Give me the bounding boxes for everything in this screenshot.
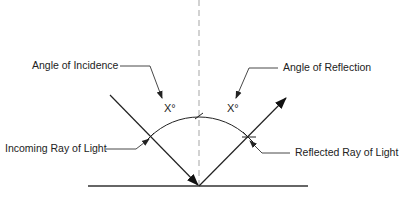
reflected-ray	[199, 98, 286, 186]
incoming-ray-leader	[106, 139, 149, 149]
angle-of-reflection-label: Angle of Reflection	[283, 61, 371, 73]
reflection-angle-value: X°	[227, 102, 239, 114]
reflection-diagram: X° X° Angle of Incidence Angle of Reflec…	[0, 0, 404, 197]
incidence-angle-value: X°	[164, 102, 176, 114]
reflected-ray-leader	[250, 141, 290, 153]
angle-of-incidence-label: Angle of Incidence	[32, 59, 119, 71]
angle-of-incidence-leader	[120, 66, 162, 98]
incoming-ray-label: Incoming Ray of Light	[5, 142, 107, 154]
angle-of-reflection-leader	[236, 68, 278, 98]
reflected-ray-label: Reflected Ray of Light	[295, 146, 398, 158]
tick-incoming	[146, 133, 154, 141]
incoming-ray	[110, 95, 198, 185]
